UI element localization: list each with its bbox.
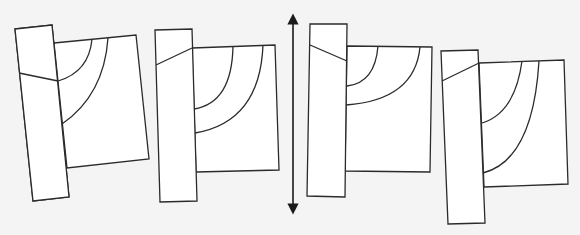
tall-rectangle-panel [307,24,347,197]
panel-fold-diagram [0,0,580,235]
square-panel [479,60,568,187]
square-panel [345,46,432,172]
figures-group [15,24,568,224]
figure-3 [307,24,432,197]
figure-1 [15,25,149,201]
tall-rectangle-panel [441,50,485,224]
square-panel [54,35,149,168]
diagram-canvas [0,0,580,235]
figure-4 [441,50,568,224]
square-panel [192,45,279,172]
figure-2 [155,29,279,202]
